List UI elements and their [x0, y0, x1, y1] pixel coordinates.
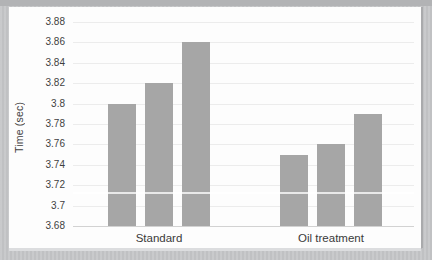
y-tick-label: 3.78	[9, 118, 65, 130]
y-tick-label: 3.84	[9, 57, 65, 69]
bar-standard-2	[145, 83, 173, 226]
y-tick-label: 3.88	[9, 16, 65, 28]
glare-artifact-line	[73, 192, 414, 194]
y-tick-label: 3.8	[9, 98, 65, 110]
gridline	[73, 63, 414, 64]
gridline	[73, 42, 414, 43]
x-axis-line	[73, 226, 414, 227]
gridline	[73, 83, 414, 84]
y-tick-label: 3.76	[9, 138, 65, 150]
bar-standard-1	[108, 104, 136, 226]
y-tick-label: 3.72	[9, 179, 65, 191]
bar-oil-treatment-1	[280, 155, 308, 226]
frame-top-strip	[0, 0, 432, 6]
chart-canvas: Time (sec) 3.883.863.843.823.83.783.763.…	[9, 7, 421, 248]
category-label-oil-treatment: Oil treatment	[298, 232, 364, 244]
y-tick-label: 3.86	[9, 36, 65, 48]
gridline	[73, 22, 414, 23]
y-tick-label: 3.68	[9, 220, 65, 232]
bar-oil-treatment-2	[317, 144, 345, 226]
category-label-standard: Standard	[136, 232, 183, 244]
plot-area	[73, 22, 414, 226]
screenshot-frame: Time (sec) 3.883.863.843.823.83.783.763.…	[0, 0, 432, 260]
y-tick-label: 3.74	[9, 159, 65, 171]
y-tick-label: 3.7	[9, 200, 65, 212]
bar-oil-treatment-3	[354, 114, 382, 226]
y-tick-label: 3.82	[9, 77, 65, 89]
bar-standard-3	[182, 42, 210, 226]
